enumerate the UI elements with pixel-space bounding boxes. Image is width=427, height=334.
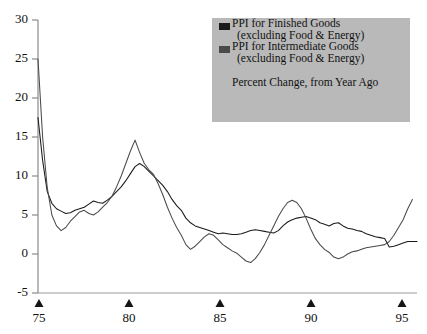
y-tick-label-25: 25 [15,50,28,65]
x-tick-label-80: 80 [123,310,136,325]
x-tick-label-90: 90 [305,310,318,325]
legend-entry-intermediate-goods: PPI for Intermediate Goods (excluding Fo… [212,41,410,64]
x-tick-triangle-90 [307,299,316,307]
legend-label-finished-goods: PPI for Finished Goods [232,18,364,30]
y-tick-label-5: 5 [22,206,29,221]
series-line-finished-goods [38,118,417,247]
chart-screenshot: 30 25 20 15 10 5 0 -5 75 80 85 90 95 [0,0,427,334]
x-tick-label-75: 75 [33,310,46,325]
y-tick-label-20: 20 [15,89,28,104]
x-tick-triangle-85 [216,299,225,307]
legend-swatch-icon-intermediate-goods [219,46,230,53]
x-tick-triangle-80 [125,299,134,307]
legend-caption: Percent Change, from Year Ago [212,65,410,88]
x-tick-triangle-95 [398,299,407,307]
legend-sublabel-intermediate-goods: (excluding Food & Energy) [232,53,364,65]
legend-swatch-icon-finished-goods [219,23,230,30]
x-axis-group: 75 80 85 90 95 [33,293,418,325]
x-tick-label-95: 95 [396,310,409,325]
y-axis-group: 30 25 20 15 10 5 0 -5 [15,11,38,299]
legend-entry-finished-goods: PPI for Finished Goods (excluding Food &… [212,18,410,41]
x-tick-triangles [35,299,407,307]
legend-text-finished-goods: PPI for Finished Goods (excluding Food &… [232,18,364,41]
y-tick-label-10: 10 [15,167,28,182]
y-tick-label-15: 15 [15,128,28,143]
y-tick-label-0: 0 [22,245,29,260]
x-tick-triangle-75 [35,299,44,307]
y-tick-label-neg5: -5 [17,284,28,299]
y-tick-label-30: 30 [15,11,28,26]
legend-text-intermediate-goods: PPI for Intermediate Goods (excluding Fo… [232,41,364,64]
chart-legend: PPI for Finished Goods (excluding Food &… [212,18,410,122]
x-tick-label-85: 85 [214,310,227,325]
y-tick-marks [32,20,38,293]
